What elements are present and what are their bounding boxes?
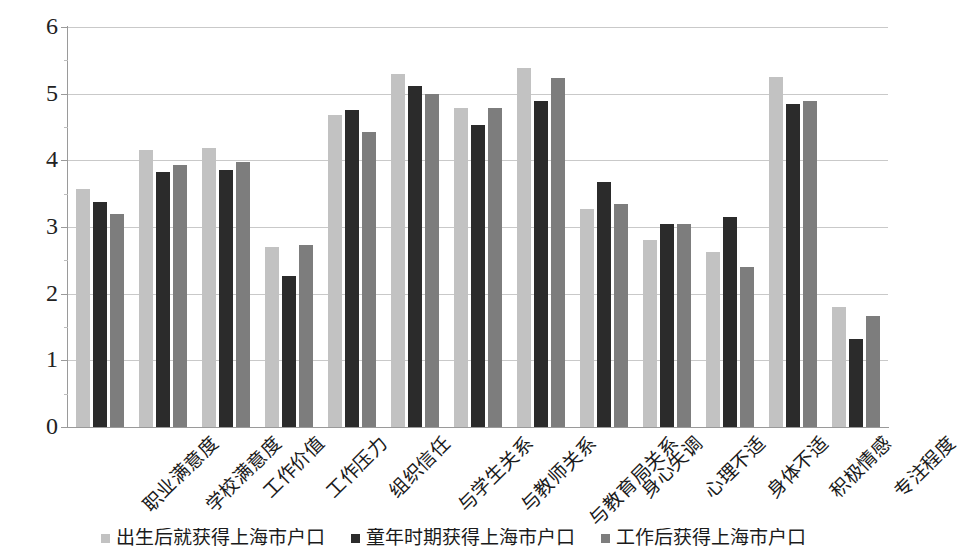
y-tick-mark [61, 27, 67, 28]
y-minor-tick [64, 260, 68, 261]
legend-item: 工作后获得上海市户口 [601, 528, 806, 548]
bar [534, 101, 548, 427]
x-axis-label: 专注程度 [889, 432, 959, 502]
bar [551, 78, 565, 427]
bar-group [573, 27, 636, 427]
bar [454, 108, 468, 427]
y-tick-mark [61, 294, 67, 295]
y-minor-tick [64, 327, 68, 328]
bar [769, 77, 783, 427]
bar [173, 165, 187, 427]
y-minor-tick [64, 394, 68, 395]
bar [156, 172, 170, 427]
legend-label: 工作后获得上海市户口 [616, 528, 806, 548]
bar [219, 170, 233, 427]
bar-group [383, 27, 446, 427]
bar [345, 110, 359, 427]
legend-label: 出生后就获得上海市户口 [116, 528, 325, 548]
y-tick-mark [61, 360, 67, 361]
y-tick-label: 5 [10, 81, 58, 105]
bar [328, 115, 342, 427]
bar [803, 101, 817, 427]
y-tick-label: 6 [10, 14, 58, 38]
legend-item: 童年时期获得上海市户口 [351, 528, 575, 548]
bar-group [131, 27, 194, 427]
bar [677, 224, 691, 427]
y-tick-label-wrap: 2 [0, 294, 58, 295]
bar [580, 209, 594, 427]
bar [866, 316, 880, 427]
y-tick-label-wrap: 3 [0, 227, 58, 228]
bar [408, 86, 422, 427]
bar [643, 240, 657, 427]
y-tick-mark [61, 160, 67, 161]
bar [740, 267, 754, 427]
bar [282, 276, 296, 427]
bar [139, 150, 153, 427]
legend-label: 童年时期获得上海市户口 [366, 528, 575, 548]
bar [660, 224, 674, 427]
x-axis-label: 心理不适 [700, 432, 770, 502]
bar [488, 108, 502, 427]
bar-group [636, 27, 699, 427]
x-axis-label: 身体不适 [763, 432, 833, 502]
bar-group [194, 27, 257, 427]
y-minor-tick [64, 60, 68, 61]
bar-group [320, 27, 383, 427]
bar [786, 104, 800, 427]
y-tick-label: 3 [10, 214, 58, 238]
bar-group [446, 27, 509, 427]
bar-group [257, 27, 320, 427]
y-tick-label-wrap: 4 [0, 160, 58, 161]
y-tick-mark [61, 227, 67, 228]
legend-swatch [601, 534, 610, 543]
bar [202, 148, 216, 427]
bar [597, 182, 611, 427]
bar-group [825, 27, 888, 427]
bar [517, 68, 531, 427]
y-minor-tick [64, 127, 68, 128]
bar [391, 74, 405, 427]
bar [723, 217, 737, 427]
x-axis-label: 积极情感 [826, 432, 896, 502]
y-tick-label: 1 [10, 347, 58, 371]
bar-group [699, 27, 762, 427]
bar [706, 252, 720, 427]
plot-area [68, 27, 888, 427]
y-tick-mark [61, 427, 67, 428]
bar [849, 339, 863, 427]
chart-legend: 出生后就获得上海市户口童年时期获得上海市户口工作后获得上海市户口 [0, 528, 906, 549]
y-minor-tick [64, 194, 68, 195]
bar-group [68, 27, 131, 427]
legend-item: 出生后就获得上海市户口 [101, 528, 325, 548]
y-tick-mark [61, 94, 67, 95]
bar [110, 214, 124, 427]
bar [832, 307, 846, 427]
y-tick-label: 4 [10, 147, 58, 171]
bar [471, 125, 485, 427]
bar [236, 162, 250, 427]
bar [425, 94, 439, 427]
y-tick-label-wrap: 6 [0, 27, 58, 28]
bar [614, 204, 628, 427]
y-tick-label-wrap: 1 [0, 360, 58, 361]
legend-swatch [351, 534, 360, 543]
bar-group [762, 27, 825, 427]
y-tick-label-wrap: 5 [0, 94, 58, 95]
bar [265, 247, 279, 427]
bar-group [510, 27, 573, 427]
x-axis-label: 工作压力 [322, 432, 392, 502]
y-tick-label: 2 [10, 281, 58, 305]
bar [299, 245, 313, 427]
y-tick-label-wrap: 0 [0, 427, 58, 428]
x-axis-labels: 职业满意度学校满意度工作价值工作压力组织信任与学生关系与教师关系与教育局关系身心… [68, 428, 888, 520]
bar [362, 132, 376, 427]
x-axis-label: 组织信任 [385, 432, 455, 502]
legend-swatch [101, 534, 110, 543]
y-tick-label: 0 [10, 414, 58, 438]
bar [76, 189, 90, 427]
bar [93, 202, 107, 427]
